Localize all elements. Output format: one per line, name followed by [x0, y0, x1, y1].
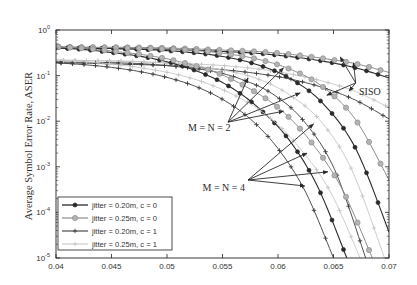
annotation-label: M = N = 2 [188, 122, 230, 133]
marker-circle-icon [204, 73, 208, 77]
marker-circle-icon [274, 104, 279, 109]
figure: SISOM = N = 2M = N = 4 0.040.0450.050.05… [0, 0, 417, 285]
marker-circle-icon [286, 114, 291, 119]
marker-circle-icon [148, 46, 153, 51]
marker-circle-icon [342, 126, 346, 130]
marker-circle-icon [263, 49, 268, 54]
marker-circle-icon [355, 120, 360, 125]
marker-circle-icon [353, 145, 357, 149]
marker-circle-icon [274, 50, 279, 55]
marker-circle-icon [297, 53, 302, 58]
marker-circle-icon [205, 49, 210, 54]
marker-circle-icon [376, 201, 380, 205]
marker-circle-icon [125, 45, 130, 50]
marker-circle-icon [297, 71, 302, 76]
x-tick-label: 0.06 [270, 262, 286, 271]
x-tick-label: 0.05 [159, 262, 175, 271]
marker-circle-icon [159, 46, 164, 51]
marker-circle-icon [263, 96, 268, 101]
marker-circle-icon [79, 46, 84, 51]
x-tick-label: 0.065 [323, 262, 344, 271]
marker-circle-icon [284, 74, 288, 78]
marker-circle-icon [320, 84, 325, 89]
marker-circle-icon [102, 48, 107, 53]
x-tick-label: 0.04 [48, 262, 64, 271]
x-tick-label: 0.07 [381, 262, 397, 271]
marker-circle-icon [228, 76, 233, 81]
marker-circle-icon [307, 168, 311, 172]
marker-circle-icon [251, 56, 256, 61]
marker-circle-icon [307, 89, 311, 93]
marker-circle-icon [332, 57, 337, 62]
marker-circle-icon [320, 56, 325, 61]
marker-circle-icon [297, 126, 302, 131]
marker-circle-icon [274, 62, 279, 67]
x-tick-label: 0.045 [101, 262, 122, 271]
marker-circle-icon [182, 47, 187, 52]
marker-circle-icon [296, 150, 300, 154]
marker-circle-icon [376, 72, 380, 76]
marker-circle-icon [273, 69, 277, 73]
marker-circle-icon [366, 139, 371, 144]
marker-circle-icon [251, 49, 256, 54]
marker-circle-icon [90, 47, 95, 52]
marker-circle-icon [67, 45, 72, 50]
marker-circle-icon [309, 54, 314, 59]
legend-label: jitter = 0.25m, c = 1 [91, 240, 157, 249]
y-axis-label: Average Symbol Error Rate, ASER [23, 72, 34, 220]
marker-circle-icon [378, 67, 383, 72]
marker-circle-icon [332, 173, 337, 178]
marker-circle-icon [319, 191, 323, 195]
marker-circle-icon [319, 99, 323, 103]
marker-circle-icon [205, 67, 210, 72]
marker-circle-icon [330, 111, 334, 115]
marker-circle-icon [227, 84, 231, 88]
marker-circle-icon [217, 71, 222, 76]
marker-circle-icon [240, 48, 245, 53]
marker-circle-icon [136, 46, 141, 51]
marker-circle-icon [125, 50, 130, 55]
legend: jitter = 0.20m, c = 0 jitter = 0.25m, c … [58, 197, 172, 250]
marker-circle-icon [56, 44, 61, 49]
marker-circle-icon [365, 171, 369, 175]
chart-canvas: SISOM = N = 2M = N = 4 0.040.0450.050.05… [0, 0, 417, 285]
marker-circle-icon [73, 203, 77, 207]
marker-circle-icon [263, 58, 268, 63]
marker-circle-icon [366, 247, 371, 252]
legend-label: jitter = 0.20m, c = 1 [91, 227, 157, 236]
marker-circle-icon [330, 218, 334, 222]
annotation-label: SISO [359, 86, 381, 97]
marker-circle-icon [309, 77, 314, 82]
marker-circle-icon [159, 55, 164, 60]
marker-circle-icon [286, 52, 291, 57]
marker-circle-icon [171, 58, 176, 63]
marker-circle-icon [343, 194, 348, 199]
marker-circle-icon [72, 215, 77, 220]
marker-circle-icon [113, 49, 118, 54]
legend-label: jitter = 0.20m, c = 0 [91, 201, 157, 210]
marker-circle-icon [309, 140, 314, 145]
legend-label: jitter = 0.25m, c = 0 [91, 214, 157, 223]
marker-circle-icon [355, 220, 360, 225]
marker-circle-icon [194, 63, 199, 68]
marker-circle-icon [182, 60, 187, 65]
marker-circle-icon [343, 105, 348, 110]
marker-circle-icon [342, 248, 346, 252]
marker-circle-icon [332, 94, 337, 99]
marker-circle-icon [194, 48, 199, 53]
marker-circle-icon [378, 161, 383, 166]
marker-circle-icon [355, 62, 360, 67]
marker-circle-icon [217, 50, 222, 55]
marker-circle-icon [240, 54, 245, 59]
marker-circle-icon [148, 53, 153, 58]
annotation-label: M = N = 4 [203, 182, 245, 193]
marker-circle-icon [261, 65, 265, 69]
marker-circle-icon [250, 61, 254, 65]
marker-circle-icon [296, 81, 300, 85]
marker-circle-icon [251, 89, 256, 94]
marker-circle-icon [136, 52, 141, 57]
marker-circle-icon [286, 66, 291, 71]
marker-circle-icon [320, 155, 325, 160]
marker-circle-icon [215, 78, 219, 82]
marker-circle-icon [171, 47, 176, 52]
